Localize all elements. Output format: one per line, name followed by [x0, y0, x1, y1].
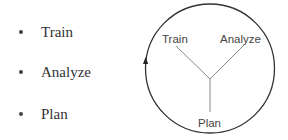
- diagram-label-analyze: Analyze: [220, 33, 261, 45]
- diagram-label-train: Train: [162, 33, 188, 45]
- cycle-arrow-icon: [143, 57, 148, 64]
- spoke-analyze: [210, 45, 244, 79]
- diagram-label-plan: Plan: [198, 117, 221, 129]
- spoke-train: [176, 46, 210, 79]
- cycle-circle: [146, 4, 275, 133]
- cycle-diagram: Train Analyze Plan: [0, 0, 288, 140]
